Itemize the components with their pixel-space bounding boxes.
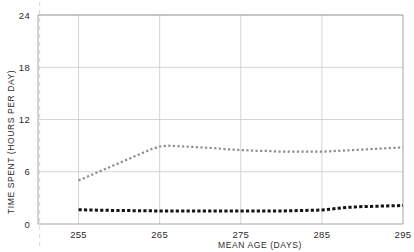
y-tick-label: 18 — [19, 62, 30, 73]
x-tick-label: 285 — [314, 229, 331, 240]
chart-background — [0, 0, 414, 252]
x-tick-label: 255 — [70, 229, 87, 240]
x-tick-label: 265 — [151, 229, 168, 240]
chart-canvas: 06121824 255265275285295 TIME SPENT (HOU… — [0, 0, 414, 252]
x-tick-label: 295 — [395, 229, 412, 240]
chart-container: 06121824 255265275285295 TIME SPENT (HOU… — [0, 0, 414, 252]
y-tick-label: 24 — [19, 10, 30, 21]
x-axis-title: MEAN AGE (DAYS) — [218, 240, 302, 250]
y-tick-label: 6 — [24, 166, 30, 177]
y-tick-label: 12 — [19, 114, 30, 125]
x-tick-label: 275 — [232, 229, 249, 240]
y-axis-title: TIME SPENT (HOURS PER DAY) — [6, 70, 16, 214]
y-tick-label: 0 — [24, 219, 30, 230]
